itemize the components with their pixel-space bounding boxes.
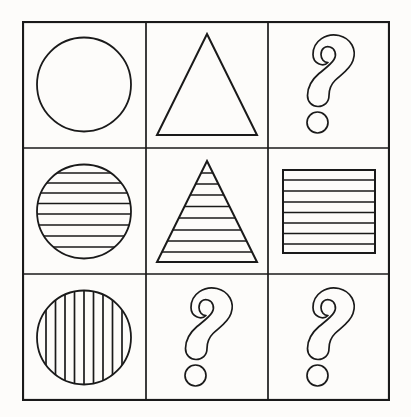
cell-r1c2[interactable]	[147, 23, 267, 147]
matrix-grid	[22, 21, 390, 401]
cell-r3c3-hitbox[interactable]	[269, 275, 389, 400]
cell-r3c2[interactable]	[147, 275, 267, 400]
cell-r2c3[interactable]	[269, 149, 389, 273]
matrix-svg	[22, 21, 390, 401]
cell-r1c3[interactable]	[269, 23, 389, 147]
cell-r3c2-hitbox[interactable]	[147, 275, 267, 400]
cell-r3c1[interactable]	[24, 275, 145, 400]
cell-r2c1-hitbox[interactable]	[24, 149, 145, 273]
cell-r1c1[interactable]	[24, 23, 145, 147]
cell-r3c3[interactable]	[269, 275, 389, 400]
puzzle-page	[0, 0, 411, 417]
cell-r2c2[interactable]	[147, 149, 267, 273]
cell-r1c1-hitbox[interactable]	[24, 23, 145, 147]
cell-r2c1[interactable]	[24, 149, 145, 273]
cell-r1c2-hitbox[interactable]	[147, 23, 267, 147]
cell-r2c2-hitbox[interactable]	[147, 149, 267, 273]
cell-r1c3-hitbox[interactable]	[269, 23, 389, 147]
cell-r2c3-hitbox[interactable]	[269, 149, 389, 273]
